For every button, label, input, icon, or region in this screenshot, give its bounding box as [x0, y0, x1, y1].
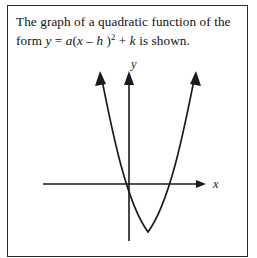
- parabola-right-arrowhead-icon: [190, 71, 201, 86]
- y-axis-arrowhead-icon: [124, 71, 134, 85]
- parabola-left-arrowhead-icon: [95, 71, 106, 86]
- graph-figure: x y: [8, 54, 247, 256]
- y-axis-label: y: [129, 57, 137, 71]
- question-prompt: The graph of a quadratic function of the…: [16, 12, 240, 50]
- y-axis: [124, 71, 134, 241]
- prompt-line-1: The graph of a quadratic function of the: [16, 14, 231, 29]
- quadratic-graph-path: [102, 80, 194, 232]
- formula-close-paren: ): [103, 33, 111, 48]
- x-axis-arrowhead-icon: [196, 180, 206, 188]
- formula-equals: =: [51, 33, 65, 48]
- x-axis: [43, 180, 206, 188]
- question-box: The graph of a quadratic function of the…: [7, 5, 248, 257]
- screenshot-root: The graph of a quadratic function of the…: [0, 0, 257, 258]
- prompt-line-2-prefix: form: [16, 33, 45, 48]
- x-axis-label: x: [212, 177, 219, 191]
- formula-plus: +: [115, 33, 129, 48]
- coordinate-plane-svg: x y: [8, 54, 247, 256]
- parabola-curve: [95, 71, 201, 232]
- prompt-line-2-suffix: is shown.: [136, 33, 190, 48]
- formula-minus: –: [83, 33, 97, 48]
